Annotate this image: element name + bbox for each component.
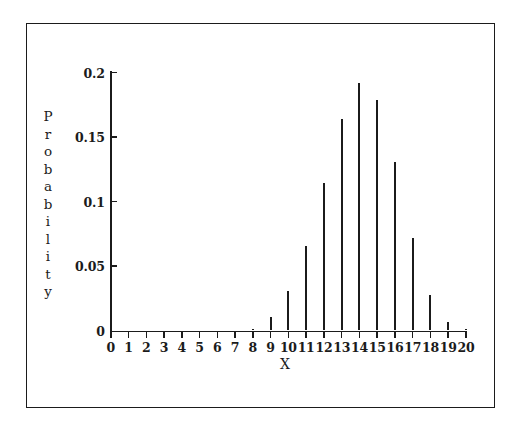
x-axis-tick: [217, 332, 219, 338]
impulse-bar: [323, 183, 325, 331]
x-axis-tick: [359, 332, 361, 338]
x-axis-tick: [465, 332, 467, 338]
probability-chart-screenshot: P r o b a b i l i t y X 00.050.10.150.20…: [0, 0, 520, 434]
x-axis-tick: [110, 332, 112, 338]
x-axis-tick: [305, 332, 307, 338]
y-axis-tick-label: 0: [53, 324, 105, 339]
x-axis-tick: [128, 332, 130, 338]
x-axis-tick: [430, 332, 432, 338]
impulse-bar: [287, 291, 289, 331]
impulse-bar: [341, 119, 343, 331]
x-axis-tick: [146, 332, 148, 338]
impulse-bar: [394, 162, 396, 330]
x-axis-title: X: [250, 356, 320, 372]
y-axis-tick: [110, 136, 117, 138]
impulse-bar: [376, 100, 378, 331]
y-axis-tick-label: 0.15: [53, 130, 105, 145]
x-axis-tick: [394, 332, 396, 338]
impulse-bar: [429, 295, 431, 331]
y-axis-title-letter: o: [38, 143, 58, 161]
x-axis-tick: [447, 332, 449, 338]
y-axis-title-letter: P: [38, 108, 58, 126]
y-axis-title-letter: l: [38, 231, 58, 249]
x-axis-tick: [252, 332, 254, 338]
y-axis-title-letter: i: [38, 213, 58, 231]
x-axis-tick: [270, 332, 272, 338]
y-axis-title-letter: b: [38, 161, 58, 179]
y-axis-tick-label: 0.1: [53, 195, 105, 210]
x-axis-tick: [199, 332, 201, 338]
x-axis-tick: [288, 332, 290, 338]
y-axis-tick: [110, 265, 117, 267]
impulse-bar: [465, 329, 467, 330]
y-axis-tick: [110, 72, 117, 74]
impulse-bar: [305, 246, 307, 330]
x-axis-tick-label: 20: [452, 340, 480, 355]
y-axis-tick-label: 0.2: [53, 66, 105, 81]
impulse-bar: [412, 238, 414, 330]
x-axis-tick: [376, 332, 378, 338]
x-axis-tick: [323, 332, 325, 338]
y-axis-tick: [110, 201, 117, 203]
impulse-bar: [252, 329, 254, 330]
x-axis-tick: [181, 332, 183, 338]
x-axis-tick: [341, 332, 343, 338]
x-axis-tick: [412, 332, 414, 338]
y-axis-tick-label: 0.05: [53, 259, 105, 274]
impulse-bar: [447, 322, 449, 331]
x-axis-tick: [163, 332, 165, 338]
impulse-bar: [270, 317, 272, 331]
impulse-bar: [358, 83, 360, 330]
y-axis-title-letter: y: [38, 283, 58, 301]
x-axis-tick: [234, 332, 236, 338]
y-axis-title-letter: a: [38, 178, 58, 196]
